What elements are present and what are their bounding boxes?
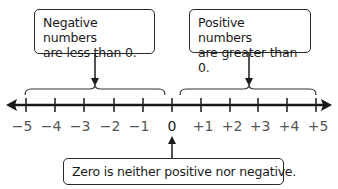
zero-callout-text: Zero is neither positive nor negative. bbox=[72, 164, 296, 179]
tick-label: −5 bbox=[12, 118, 33, 134]
negative-callout-line1: Negative numbers bbox=[43, 15, 146, 45]
positive-callout-line1: Positive numbers bbox=[198, 15, 302, 45]
positive-numbers-callout: Positive numbers are greater than 0. bbox=[189, 9, 311, 53]
tick-label: +1 bbox=[193, 118, 214, 134]
tick-labels: −5 −4 −3 −2 −1 0 +1 +2 +3 +4 +5 bbox=[12, 118, 329, 134]
tick-label: −3 bbox=[70, 118, 91, 134]
tick-label: +2 bbox=[222, 118, 243, 134]
tick-label: −2 bbox=[100, 118, 121, 134]
zero-pointer-arrow bbox=[168, 136, 176, 158]
tick-label: −1 bbox=[129, 118, 150, 134]
tick-label-zero: 0 bbox=[168, 118, 177, 134]
tick-label: +4 bbox=[279, 118, 300, 134]
tick-label: +5 bbox=[308, 118, 329, 134]
positive-callout-line2: are greater than 0. bbox=[198, 45, 302, 75]
negative-numbers-callout: Negative numbers are less than 0. bbox=[34, 9, 155, 54]
zero-callout: Zero is neither positive nor negative. bbox=[63, 158, 284, 185]
tick-label: −4 bbox=[41, 118, 62, 134]
positive-brace bbox=[180, 85, 316, 95]
negative-callout-line2: are less than 0. bbox=[43, 45, 146, 60]
tick-label: +3 bbox=[250, 118, 271, 134]
negative-brace bbox=[25, 85, 165, 95]
